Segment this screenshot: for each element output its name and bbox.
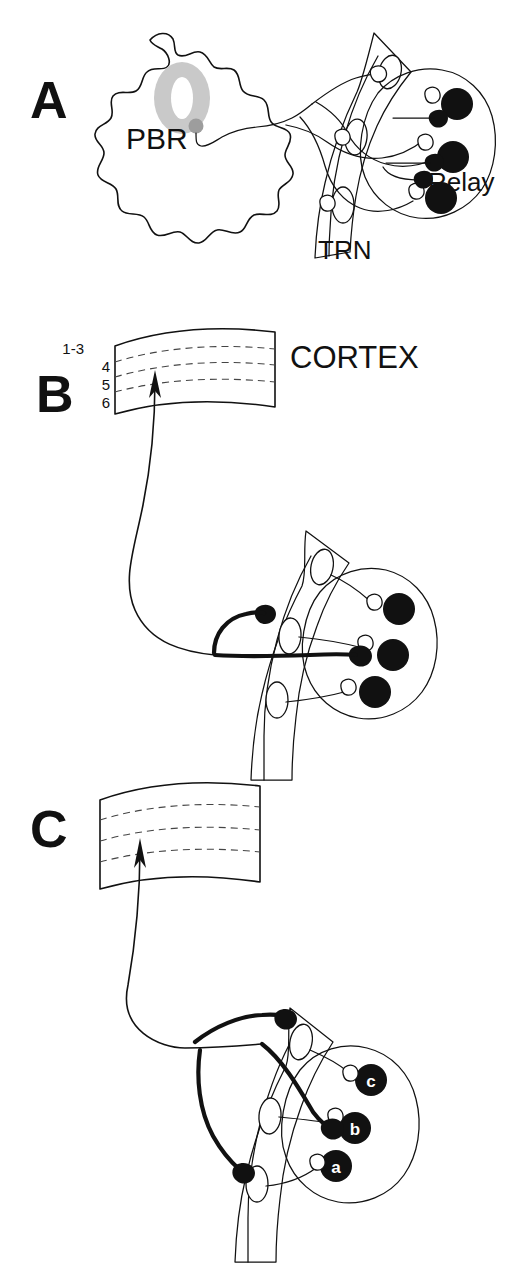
trn-band-c — [235, 1008, 333, 1262]
relay-cell-b-label: b — [350, 1120, 360, 1139]
pbr-soma — [189, 119, 204, 134]
relay-stem-a3 — [383, 167, 418, 180]
cortex-layer-line-c2 — [100, 827, 260, 841]
cortex-layer-line-c3 — [100, 849, 260, 862]
terminal-filled-c-relayb — [321, 1118, 344, 1139]
relay-cell-c-label: c — [366, 1072, 375, 1091]
relay-cell-b3 — [359, 676, 391, 708]
terminal-filled-c-trn3 — [232, 1163, 255, 1184]
cortex-layer-label-1: 1-3 — [62, 340, 84, 357]
trn-cell-b3 — [266, 682, 288, 718]
relay-cell-b1 — [383, 593, 415, 625]
panel-letter-b: B — [36, 365, 74, 423]
cortex-layer-label-4: 6 — [102, 394, 110, 411]
terminal-open-a4 — [425, 87, 440, 103]
terminal-open-a5 — [418, 134, 433, 150]
trn-cell-c2 — [258, 1097, 282, 1134]
cortex-layer-label-3: 5 — [102, 376, 110, 393]
pbr-branch-1 — [312, 73, 381, 104]
label-relay: Relay — [428, 167, 494, 197]
pbr-outline — [95, 33, 293, 243]
label-trn: TRN — [318, 235, 371, 265]
panel-b: B 1-3 4 5 6 CORTEX — [36, 329, 437, 780]
terminal-open-a3 — [320, 195, 335, 211]
terminal-open-c3 — [310, 1154, 325, 1170]
terminal-filled-a1 — [429, 110, 448, 128]
driver-axon-b — [129, 380, 215, 655]
conn-c3 — [266, 1168, 316, 1186]
figure-canvas: A — [0, 0, 509, 1271]
pbr-branch-2 — [316, 102, 437, 166]
cortex-layer-line-c1 — [100, 805, 260, 820]
driver-trn-branch-c2 — [198, 1050, 240, 1170]
cortex-layer-line-b1 — [115, 347, 275, 362]
cortex-layer-line-b2 — [115, 362, 275, 377]
terminal-open-c1 — [343, 1065, 358, 1081]
terminal-filled-c-trn1 — [274, 1009, 297, 1030]
panel-c: C c b a — [30, 783, 419, 1262]
conn-b2 — [299, 637, 363, 648]
conn-b1 — [331, 575, 370, 601]
terminal-open-b3 — [341, 679, 356, 695]
driver-collateral-b — [215, 654, 356, 656]
relay-cell-a-label: a — [331, 1158, 341, 1177]
terminal-open-b1 — [367, 594, 382, 610]
label-cortex: CORTEX — [290, 340, 419, 375]
conn-c1 — [310, 1050, 348, 1072]
label-pbr: PBR — [126, 122, 188, 155]
panel-a: A — [30, 33, 495, 265]
cortex-layer-label-2: 4 — [102, 358, 110, 375]
cortex-slab-c — [100, 783, 260, 889]
pbr-axon — [196, 104, 312, 146]
relay-cell-b2 — [377, 639, 409, 671]
driver-trn-branch-c1 — [195, 1015, 283, 1042]
terminal-open-a1 — [370, 66, 386, 82]
trn-band-inner-edge — [329, 56, 378, 256]
terminal-open-a2 — [335, 129, 350, 145]
panel-letter-c: C — [30, 800, 68, 858]
cortex-layer-line-b3 — [115, 379, 275, 392]
panel-letter-a: A — [30, 71, 68, 129]
